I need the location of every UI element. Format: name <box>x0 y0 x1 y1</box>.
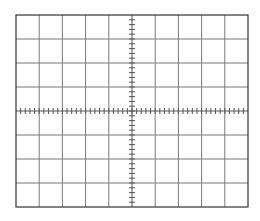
oscilloscope-graticule <box>0 0 260 221</box>
